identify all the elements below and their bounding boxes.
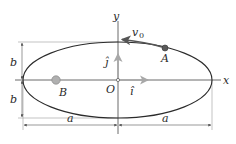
point-B-label: B xyxy=(58,86,67,99)
velocity-subscript: 0 xyxy=(139,31,144,40)
point-A-label: A xyxy=(160,52,169,65)
dimension-b-top-label: b xyxy=(10,56,17,69)
dimension-a-left-label: a xyxy=(67,112,74,125)
velocity-label: v 0 xyxy=(132,26,144,40)
dimension-a-right-label: a xyxy=(162,112,169,125)
point-B xyxy=(52,76,60,84)
orbit-diagram: y x O ĵ î A B v 0 b b a a xyxy=(0,0,236,144)
origin-point xyxy=(116,78,119,81)
point-A xyxy=(162,45,168,51)
y-axis-label: y xyxy=(112,10,120,23)
origin-label: O xyxy=(106,83,115,96)
dimension-b-bottom-label: b xyxy=(10,93,17,106)
unit-vector-j-label: ĵ xyxy=(103,56,109,69)
x-axis-label: x xyxy=(223,74,230,87)
unit-vector-i-label: î xyxy=(130,85,135,98)
velocity-symbol: v xyxy=(132,26,139,39)
